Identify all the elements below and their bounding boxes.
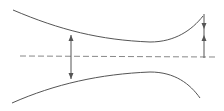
top-wall-curve: [13, 10, 203, 42]
centerline-dashed: [20, 56, 215, 57]
arrow-up-icon: [69, 35, 74, 41]
arrow-down-icon: [69, 73, 74, 79]
left-dimension-arrow: [69, 35, 74, 79]
nozzle-diagram: [0, 0, 224, 111]
bottom-wall-curve: [12, 72, 200, 103]
diagram-canvas: [0, 0, 224, 111]
arrow-up-icon: [202, 35, 207, 41]
arrow-down-icon: [202, 23, 207, 29]
right-dimension-arrow: [202, 14, 207, 58]
